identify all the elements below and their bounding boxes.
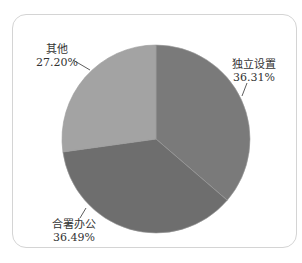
slice-label-duli: 独立设置 36.31% [232, 58, 276, 84]
slice-label-name: 其他 [36, 43, 78, 56]
slice-label-name: 独立设置 [232, 58, 276, 71]
slice-label-qita: 其他 27.20% [36, 43, 78, 69]
leader-line-heshu [80, 208, 86, 218]
leader-line-duli [242, 83, 247, 96]
pie-chart [0, 0, 302, 263]
slice-label-heshu: 合署办公 36.49% [52, 218, 96, 244]
slice-label-value: 36.49% [52, 231, 96, 244]
slice-label-name: 合署办公 [52, 218, 96, 231]
slice-label-value: 36.31% [232, 71, 276, 84]
slice-label-value: 27.20% [36, 56, 78, 69]
